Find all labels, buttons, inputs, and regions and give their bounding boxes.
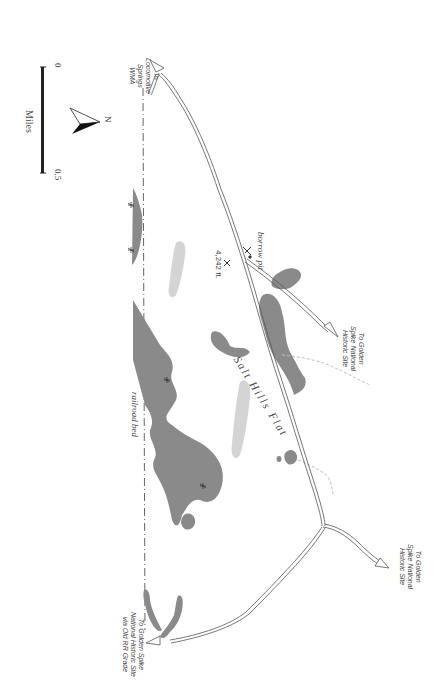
map-canvas (0, 0, 446, 692)
wetland-bottom-left (143, 590, 162, 631)
label-line: Spike National (349, 326, 357, 371)
label-line: To Golden (357, 326, 365, 371)
label-borrow-pit: borrow pit (257, 232, 265, 270)
wetland-mid-left (211, 331, 250, 357)
label-railroad-bed: railroad bed (131, 392, 139, 437)
pale-area-north (169, 241, 186, 297)
scale-end-label: 0.5 (54, 169, 62, 180)
north-label: N (104, 116, 112, 123)
wetland-large-central (133, 300, 223, 525)
wetland-small-blob (181, 514, 195, 530)
north-arrow-icon (70, 108, 100, 134)
label-line: WMA (128, 58, 136, 94)
label-line: To (152, 58, 160, 94)
wetland-tiny (277, 456, 282, 462)
label-line: Historic Site (398, 544, 406, 589)
label-line: Locomotive (144, 58, 152, 94)
scale-unit-label: Miles (25, 110, 33, 133)
arrow-old-rr-icon (146, 636, 160, 645)
label-golden-spike-old-rr: To Golden Spike National Historic Site v… (121, 612, 145, 677)
scale-start-label: 0 (54, 63, 62, 68)
dotted-track-lower (298, 460, 333, 495)
label-golden-spike-upper: To Golden Spike National Historic Site (341, 326, 365, 371)
pale-area-south (232, 380, 251, 458)
wetland-upper-right (271, 268, 301, 289)
label-line: To Golden Spike (137, 612, 145, 677)
label-line: Historic Site (341, 326, 349, 371)
arrow-golden-spike-upper-icon (324, 322, 338, 337)
wetland-top-left (132, 188, 142, 265)
label-line: National Historic Site (129, 612, 137, 677)
wetland-salt-hills (259, 294, 306, 395)
elevation-marker-icon (224, 260, 230, 266)
label-locomotive-springs: To Locomotive Springs WMA (128, 58, 160, 94)
label-elevation: 4,242 ft. (214, 250, 222, 279)
label-line: Springs (136, 58, 144, 94)
wetland-bottom-hook (160, 596, 183, 638)
wetland-small-right (284, 450, 297, 465)
label-golden-spike-right: To Golden Spike National Historic Site (398, 544, 422, 589)
label-line: Spike National (406, 544, 414, 589)
scale-bar (40, 67, 46, 173)
arrow-golden-spike-right-icon (375, 558, 389, 568)
label-line: To Golden (414, 544, 422, 589)
label-line: via Old RR Grade (121, 612, 129, 677)
